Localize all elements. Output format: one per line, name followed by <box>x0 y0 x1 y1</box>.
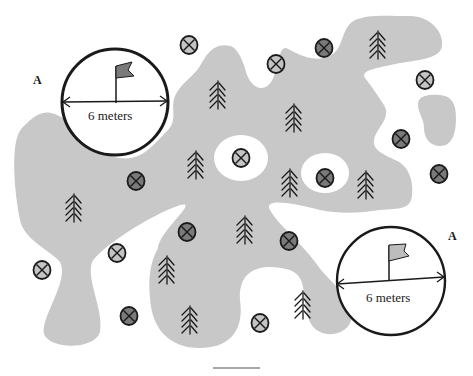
circled-x-marker-icon <box>233 149 250 167</box>
zone-a-right-dimension: 6 meters <box>366 290 410 306</box>
circled-x-marker-icon <box>431 165 448 183</box>
circled-x-marker-icon <box>128 172 145 190</box>
terrain-right-island <box>418 95 456 146</box>
zone-a-right-letter: A <box>448 229 457 244</box>
circled-x-marker-icon <box>417 71 434 89</box>
circled-x-marker-icon <box>181 36 198 54</box>
zone-a-right <box>337 227 445 335</box>
zone-a-left-dimension: 6 meters <box>88 108 132 124</box>
playfield-map <box>0 0 473 376</box>
zone-a-left-letter: A <box>33 73 42 88</box>
circled-x-marker-icon <box>252 314 269 332</box>
circled-x-marker-icon <box>281 232 298 250</box>
circled-x-marker-icon <box>268 55 285 73</box>
circled-x-marker-icon <box>179 223 196 241</box>
circled-x-marker-icon <box>316 39 333 57</box>
circled-x-marker-icon <box>109 244 126 262</box>
circled-x-marker-icon <box>34 261 51 279</box>
circled-x-marker-icon <box>317 169 334 187</box>
circled-x-marker-icon <box>393 130 410 148</box>
zone-a-left <box>62 49 168 155</box>
circled-x-marker-icon <box>121 307 138 325</box>
